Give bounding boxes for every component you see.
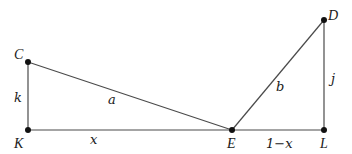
point-k	[25, 127, 31, 133]
segment-ce	[28, 62, 232, 130]
label-point-l: L	[319, 136, 328, 151]
label-segment-1-minus-x: 1−x	[266, 136, 293, 151]
label-segment-b: b	[276, 79, 284, 94]
label-segment-x: x	[90, 132, 98, 147]
point-c	[25, 59, 31, 65]
geometry-diagram: C K E L D k x a b 1−x j	[0, 0, 352, 154]
label-point-c: C	[14, 47, 24, 62]
label-segment-a: a	[108, 92, 116, 107]
label-point-k: K	[13, 136, 24, 151]
point-d	[321, 17, 327, 23]
label-segment-j: j	[328, 71, 335, 86]
point-l	[321, 127, 327, 133]
point-e	[229, 127, 235, 133]
label-segment-k: k	[14, 90, 22, 105]
label-point-d: D	[327, 8, 338, 23]
segment-ed	[232, 20, 324, 130]
label-point-e: E	[226, 136, 236, 151]
